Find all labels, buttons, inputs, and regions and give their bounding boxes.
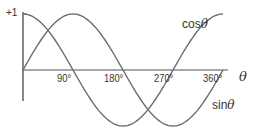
x-tick-label-360: 360° [203, 73, 222, 84]
x-tick-label-180: 180° [104, 73, 123, 84]
sin-label-var: θ [227, 98, 234, 112]
cos-label-fn: cos [182, 17, 201, 31]
x-tick-label-270: 270° [154, 73, 173, 84]
sin-label-fn: sin [212, 98, 227, 112]
sin-label: sinθ [212, 99, 235, 111]
y-tick-label: +1 [6, 8, 17, 18]
cos-label-var: θ [201, 17, 208, 31]
trig-chart [0, 0, 259, 132]
x-tick-label-90: 90° [57, 73, 71, 84]
cos-label: cosθ [182, 18, 208, 30]
x-axis-label: θ [239, 70, 247, 83]
